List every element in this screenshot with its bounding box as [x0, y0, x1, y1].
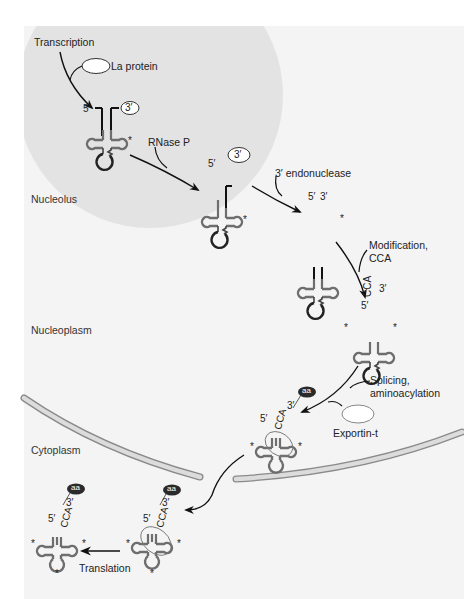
- trna-pathway-diagram: Nucleolus Nucleoplasm Cytoplasm Transcri…: [0, 0, 464, 599]
- step-label-endonuclease: 3′ endonuclease: [275, 167, 351, 179]
- t7-mark-bottom: *: [55, 568, 59, 580]
- la-protein-free: [82, 59, 110, 74]
- t6-aa: aa: [167, 484, 176, 493]
- t5-mark-right: *: [298, 441, 302, 453]
- t1-mark: *: [128, 135, 132, 147]
- region-label-cytoplasm: Cytoplasm: [31, 444, 81, 456]
- t4-mark-left: *: [344, 322, 348, 334]
- t1-3prime: 3′: [125, 102, 132, 114]
- t4-3prime: 3′: [379, 283, 386, 295]
- region-label-nucleoplasm: Nucleoplasm: [31, 324, 92, 336]
- t7-mark-left: *: [31, 538, 35, 550]
- t7-3prime: 3′: [66, 497, 73, 509]
- exportin-t-free: [342, 405, 374, 423]
- step-label-modification-2: CCA: [369, 252, 391, 264]
- t4-cca: CCA: [362, 276, 374, 297]
- t7-5prime: 5′: [48, 513, 55, 525]
- step-label-transcription: Transcription: [34, 36, 94, 48]
- t5-mark-left: *: [250, 441, 254, 453]
- step-label-splicing-2: aminoacylation: [370, 387, 440, 399]
- t5-3prime: 3′: [287, 400, 294, 412]
- t7-aa: aa: [71, 483, 80, 492]
- step-label-translation: Translation: [79, 562, 131, 574]
- t3-5prime: 5′: [308, 191, 315, 203]
- t2-mark: *: [243, 214, 247, 226]
- t3-mark: *: [340, 213, 344, 225]
- t3-3prime: 3′: [320, 191, 327, 203]
- t7-mark-right: *: [82, 538, 86, 550]
- t6-5prime: 5′: [143, 513, 150, 525]
- t4-mark-right: *: [393, 322, 397, 334]
- t6-mark-right: *: [177, 538, 181, 550]
- t6-3prime: 3′: [162, 497, 169, 509]
- t5-aa: aa: [302, 386, 311, 395]
- t2-5prime: 5′: [208, 158, 215, 170]
- t6-mark-left: *: [126, 538, 130, 550]
- t1-5prime: 5′: [83, 103, 90, 115]
- step-label-splicing-1: Splicing,: [370, 374, 410, 386]
- step-label-modification-1: Modification,: [369, 239, 428, 251]
- step-label-rnase-p: RNase P: [148, 136, 190, 148]
- step-label-la-protein: La protein: [111, 60, 158, 72]
- step-label-exportin: Exportin-t: [333, 427, 378, 439]
- t4-5prime: 5′: [361, 300, 368, 312]
- region-label-nucleolus: Nucleolus: [31, 193, 77, 205]
- t2-3prime: 3′: [234, 149, 241, 161]
- t5-5prime: 5′: [260, 413, 267, 425]
- t6-mark-bottom: *: [150, 568, 154, 580]
